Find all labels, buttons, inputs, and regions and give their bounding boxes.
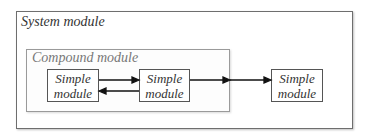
arrowhead-right-icon xyxy=(223,77,230,83)
arrowhead-left-icon xyxy=(99,88,106,94)
connection-arrows xyxy=(0,0,370,136)
arrowhead-right-icon xyxy=(132,77,139,83)
arrowhead-right-icon xyxy=(264,77,271,83)
